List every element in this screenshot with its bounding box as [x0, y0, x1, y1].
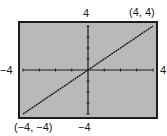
x-max-label: 4 [160, 64, 166, 76]
y-min-label: −4 [78, 121, 91, 133]
point-min-annotation: (−4, −4) [14, 121, 53, 133]
plot-area [20, 23, 156, 117]
point-max-annotation: (4, 4) [129, 6, 155, 18]
y-max-label: 4 [83, 7, 89, 19]
graph-screen [18, 21, 158, 119]
x-min-label: −4 [0, 64, 13, 76]
